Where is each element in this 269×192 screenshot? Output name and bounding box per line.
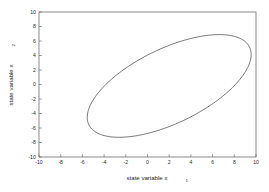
y-axis-title-text: state variable x (7, 65, 14, 106)
x-tick-label: 10 (253, 159, 259, 165)
x-tick-label: 6 (211, 159, 214, 165)
y-tick-label: 10 (30, 9, 36, 15)
y-tick-label: -10 (28, 154, 36, 160)
x-tick-label: -6 (80, 159, 85, 165)
x-tick-label: 0 (146, 159, 149, 165)
y-axis-title-subscript: 2 (11, 44, 16, 47)
y-axis-title: state variable x 2 (7, 44, 16, 106)
x-tick-label: -8 (58, 159, 63, 165)
y-tick-label: -4 (31, 110, 36, 116)
y-tick-label: -8 (31, 139, 36, 145)
plot-area-background (39, 12, 256, 157)
x-axis-title: state variable x 1 (127, 174, 189, 183)
x-tick-label: 4 (189, 159, 192, 165)
x-axis-title-subscript: 1 (186, 178, 189, 183)
y-tick-label: 8 (33, 23, 36, 29)
y-tick-label: 2 (33, 67, 36, 73)
y-tick-label: 6 (33, 38, 36, 44)
y-tick-label: -2 (31, 96, 36, 102)
y-tick-label: -6 (31, 125, 36, 131)
y-tick-label: 0 (33, 81, 36, 87)
x-tick-label: 2 (168, 159, 171, 165)
chart-figure: -10-8-6-4-20246810 -10-8-6-4-20246810 st… (0, 0, 269, 192)
x-tick-label: 8 (233, 159, 236, 165)
phase-portrait-plot: -10-8-6-4-20246810 -10-8-6-4-20246810 st… (0, 0, 269, 192)
y-tick-label: 4 (33, 52, 36, 58)
x-tick-label: -10 (35, 159, 43, 165)
x-tick-label: -2 (124, 159, 129, 165)
x-axis-title-text: state variable x (127, 174, 168, 181)
x-tick-label: -4 (102, 159, 107, 165)
